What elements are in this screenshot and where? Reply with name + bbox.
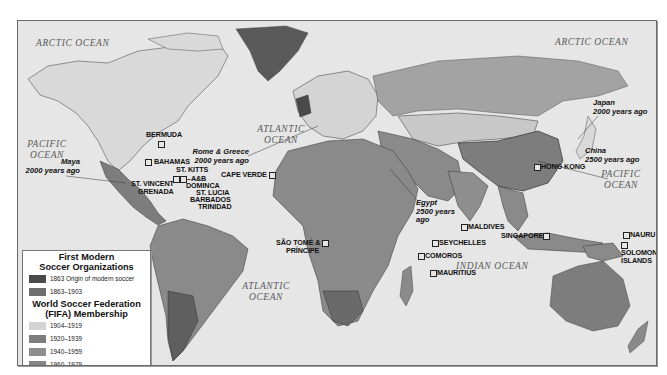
atlantic-ocean-label-south: ATLANTIC OCEAN: [236, 281, 296, 303]
label-solomon-islands: SOLOMONISLANDS: [621, 241, 657, 265]
swatch-origin: [29, 275, 46, 283]
label-seychelles: SEYCHELLES: [432, 239, 486, 247]
annotation-maya: Maya2000 years ago: [20, 158, 80, 175]
label-st-kitts: ST. KITTS: [176, 166, 208, 174]
label-singapore: SINGAPORE: [501, 232, 550, 240]
label-grenada: GRENADA: [138, 188, 174, 196]
new-guinea: [583, 243, 623, 261]
map-legend: First ModernSoccer Organizations 1863 Or…: [22, 250, 151, 366]
pacific-ocean-label-east: PACIFIC OCEAN: [596, 169, 646, 191]
label-comoros: COMOROS: [418, 252, 462, 260]
annotation-china: China2500 years ago: [585, 147, 639, 164]
label-sao-tome: SÃO TOMÉ & PRÍNCIPE: [276, 239, 329, 255]
swatch-1863-1903: [29, 288, 46, 296]
legend-item-1863-1903: 1863–1903: [23, 285, 150, 298]
label-cape-verde: CAPE VERDE: [221, 171, 276, 179]
bermuda-marker: [158, 141, 165, 148]
legend-item-origin: 1863 Origin of modern soccer: [23, 272, 150, 285]
argentina: [168, 291, 198, 361]
arctic-ocean-label-west: ARCTIC OCEAN: [36, 38, 109, 49]
legend-item-1920-1939: 1920–1939: [23, 332, 150, 345]
russia: [373, 56, 628, 116]
annotation-egypt: Egypt2500 yearsago: [416, 199, 455, 225]
legend-section2-title: World Soccer Federation(FIFA) Membership: [23, 300, 150, 319]
legend-item-1960-1979: 1960–1979: [23, 358, 150, 366]
australia: [550, 261, 630, 331]
arctic-ocean-label-east: ARCTIC OCEAN: [555, 37, 628, 48]
new-zealand: [628, 321, 648, 353]
annotation-japan: Japan2000 years ago: [593, 99, 647, 116]
label-bermuda: BERMUDA: [146, 131, 182, 139]
label-hong-kong: HONG KONG: [534, 163, 585, 171]
label-nauru: NAURU: [623, 231, 655, 239]
legend-item-1940-1959: 1940–1959: [23, 345, 150, 358]
atlantic-ocean-label-north: ATLANTIC OCEAN: [246, 124, 316, 146]
annotation-rome-greece: Rome & Greece2000 years ago: [183, 148, 249, 165]
bahamas-marker: [145, 159, 152, 166]
label-maldives: MALDIVES: [461, 223, 504, 231]
world-map: ARCTIC OCEAN ARCTIC OCEAN PACIFIC OCEAN …: [17, 20, 657, 366]
britain: [296, 95, 311, 117]
cape-verde-marker: [269, 172, 276, 179]
south-america: [150, 219, 248, 361]
legend-item-1904-1919: 1904–1919: [23, 319, 150, 332]
label-trinidad: TRINIDAD: [198, 203, 232, 211]
legend-section1-title: First ModernSoccer Organizations: [23, 253, 150, 272]
label-mauritius: MAURITIUS: [430, 269, 476, 277]
greenland: [236, 26, 308, 81]
madagascar: [400, 266, 413, 306]
